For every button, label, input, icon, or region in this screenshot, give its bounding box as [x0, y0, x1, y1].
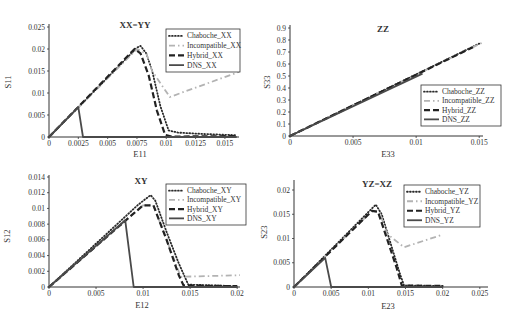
y-tick-label: 0.008 — [28, 220, 45, 229]
x-tick-label: 0.005 — [99, 139, 116, 148]
y-tick-label: 0 — [41, 133, 45, 142]
subplot-xy: 00.0050.010.0150.0200.0020.0040.0060.008… — [2, 173, 246, 310]
y-tick-label: 0.005 — [28, 111, 45, 120]
chart-title: YZ=XZ — [362, 179, 392, 189]
x-axis-label: E11 — [133, 149, 146, 159]
x-tick-label: 0.01 — [362, 289, 375, 298]
legend-label: Incompatible_XY — [187, 195, 242, 204]
x-tick-label: 0.015 — [471, 138, 488, 147]
y-tick-label: 0 — [41, 283, 45, 292]
series-line-dns-zz — [290, 74, 423, 136]
y-tick-label: 0.01 — [32, 204, 45, 213]
legend-label: DNS_XY — [187, 214, 217, 223]
y-tick-label: 0.01 — [277, 234, 290, 243]
legend-label: DNS_ZZ — [442, 115, 470, 124]
y-axis-label: S11 — [3, 76, 13, 89]
x-tick-label: 0 — [292, 289, 296, 298]
y-tick-label: 0.5 — [277, 72, 287, 81]
x-tick-label: 0.0075 — [127, 139, 148, 148]
y-axis-label: S12 — [2, 229, 12, 242]
legend: Chaboche_XYIncompatible_XYHybrid_XYDNS_X… — [166, 184, 246, 225]
y-tick-label: 0.01 — [32, 89, 45, 98]
subplot-zz: 00.0050.010.01500.10.20.30.40.50.60.70.8… — [262, 24, 501, 159]
x-tick-label: 0.005 — [345, 138, 362, 147]
x-tick-label: 0.015 — [182, 289, 199, 298]
legend-label: DNS_XX — [187, 61, 217, 70]
y-axis-label: S33 — [262, 75, 272, 88]
x-tick-label: 0 — [288, 138, 292, 147]
legend-label: Chaboche_YZ — [425, 187, 469, 196]
y-tick-label: 0.015 — [273, 210, 290, 219]
y-tick-label: 0.004 — [28, 251, 45, 260]
legend-label: Incompatible_YZ — [425, 197, 479, 206]
subplot-xx-yy: 00.00250.0050.00750.010.01250.01500.0050… — [3, 20, 242, 159]
y-tick-label: 0.005 — [273, 258, 290, 267]
y-tick-label: 0.3 — [277, 96, 287, 105]
legend-label: Hybrid_XY — [187, 205, 223, 214]
legend: Chaboche_XXIncompatible_XXHybrid_XXDNS_X… — [166, 29, 242, 72]
x-tick-label: 0.01 — [160, 139, 173, 148]
legend-label: Hybrid_ZZ — [442, 106, 477, 115]
legend-label: Hybrid_XX — [187, 51, 223, 60]
y-tick-label: 0.025 — [28, 23, 45, 32]
y-tick-label: 0.9 — [277, 24, 287, 33]
legend-label: Incompatible_XX — [187, 41, 242, 50]
y-tick-label: 0.012 — [28, 188, 45, 197]
y-tick-label: 0.2 — [277, 108, 287, 117]
chart-figure: 00.00250.0050.00750.010.01250.01500.0050… — [0, 0, 513, 323]
y-tick-label: 0.014 — [28, 173, 45, 182]
x-tick-label: 0.02 — [436, 289, 449, 298]
x-tick-label: 0.015 — [397, 289, 414, 298]
x-axis-label: E12 — [135, 300, 149, 310]
legend: Chaboche_YZIncompatible_YZHybrid_YZDNS_Y… — [404, 185, 480, 227]
y-tick-label: 0.015 — [28, 67, 45, 76]
x-tick-label: 0 — [47, 139, 51, 148]
x-tick-label: 0.0125 — [185, 139, 206, 148]
x-axis-label: E23 — [381, 301, 395, 311]
x-tick-label: 0.005 — [88, 289, 105, 298]
x-tick-label: 0.025 — [471, 289, 488, 298]
legend-label: Incompatible_ZZ — [442, 96, 495, 105]
y-tick-label: 0.02 — [32, 45, 45, 54]
y-tick-label: 0 — [282, 132, 286, 141]
y-tick-label: 0.02 — [277, 186, 290, 195]
series-line-dns-xy — [49, 220, 237, 287]
legend-label: DNS_YZ — [425, 216, 454, 225]
y-tick-label: 0.8 — [277, 36, 287, 45]
legend-label: Chaboche_XY — [187, 186, 232, 195]
legend-label: Chaboche_ZZ — [442, 87, 485, 96]
series-line-dns-yz — [294, 258, 443, 287]
legend: Chaboche_ZZIncompatible_ZZHybrid_ZZDNS_Z… — [421, 85, 501, 126]
legend-label: Hybrid_YZ — [425, 206, 460, 215]
y-tick-label: 0.6 — [277, 60, 287, 69]
x-tick-label: 0.005 — [323, 289, 340, 298]
legend-label: Chaboche_XX — [187, 31, 232, 40]
subplot-yz-xz: 00.0050.010.0150.020.02500.0050.010.0150… — [259, 179, 489, 311]
x-tick-label: 0.015 — [216, 139, 233, 148]
y-tick-label: 0.1 — [277, 120, 287, 129]
chart-title: XX=YY — [119, 20, 151, 30]
chart-title: ZZ — [377, 24, 389, 34]
y-axis-label: S23 — [259, 225, 269, 238]
y-tick-label: 0.4 — [277, 84, 287, 93]
y-tick-label: 0.7 — [277, 48, 287, 57]
x-tick-label: 0.01 — [410, 138, 423, 147]
series-line-dns-xx — [49, 107, 237, 137]
figure: 00.00250.0050.00750.010.01250.01500.0050… — [0, 0, 513, 323]
x-tick-label: 0.02 — [231, 289, 244, 298]
x-axis-label: E33 — [381, 149, 395, 159]
x-tick-label: 0.01 — [137, 289, 150, 298]
x-tick-label: 0.0025 — [68, 139, 89, 148]
y-tick-label: 0 — [286, 283, 290, 292]
y-tick-label: 0.006 — [28, 235, 45, 244]
y-tick-label: 0.002 — [28, 267, 45, 276]
x-tick-label: 0 — [47, 289, 51, 298]
chart-title: XY — [135, 176, 148, 186]
